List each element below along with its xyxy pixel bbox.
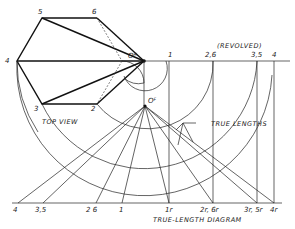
diagram-title: TRUE-LENGTH DIAGRAM [153,216,242,224]
label-of: OF [148,97,157,105]
label-3: 3 [34,105,38,113]
top-view-label: TOP VIEW [42,118,78,126]
baseline-3r-5r: 3r, 5r [244,206,264,214]
revolution-arcs [17,61,272,196]
label-6: 6 [92,8,97,16]
label-5: 5 [38,8,43,16]
baseline-2r-6r: 2r, 6r [200,206,220,214]
revolved-3-5: 3,5 [251,51,263,59]
revolved-label: (REVOLVED) [217,42,262,50]
baseline-1r: 1r [165,206,173,214]
revolved-1: 1 [168,51,172,59]
true-length-diagram-drawing: 5 6 4 3 2 OH OF TOP VIEW (REVOLVED) 1 2,… [0,0,295,229]
baseline-3-5: 3,5 [35,206,47,214]
label-oh: OH [128,52,138,60]
revolved-2-6: 2,6 [205,51,217,59]
baseline-1: 1 [119,206,123,214]
true-lengths-label: TRUE LENGTHS [211,120,267,128]
baseline-4r: 4r [270,206,278,214]
baseline-4: 4 [13,206,17,214]
label-4: 4 [5,57,9,65]
label-2: 2 [91,105,96,113]
baseline-2-6: 2 6 [86,206,98,214]
hexagon-top-view [17,18,146,104]
revolved-4: 4 [272,51,276,59]
